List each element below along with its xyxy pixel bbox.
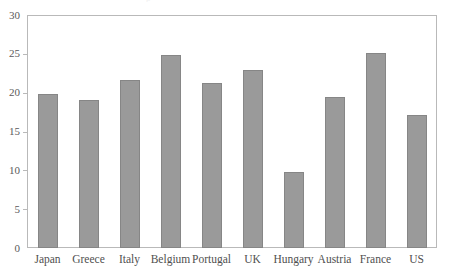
y-axis-tick-label: 5 <box>15 204 21 215</box>
bar <box>366 53 386 248</box>
bar <box>325 97 345 248</box>
y-axis: 051015202530 <box>0 0 27 272</box>
x-axis-category-label: Japan <box>34 252 60 266</box>
bar-chart: p 051015202530 JapanGreeceItalyBelgiumPo… <box>0 0 452 272</box>
x-axis-category-label: UK <box>244 252 261 266</box>
x-axis-category-label: Portugal <box>192 252 231 266</box>
y-axis-tick-label: 10 <box>9 165 20 176</box>
cropped-title-remnant: p <box>146 0 156 2</box>
x-axis-category-label: Greece <box>72 252 105 266</box>
x-axis-category-label: US <box>409 252 424 266</box>
y-axis-tick-label: 0 <box>15 243 21 254</box>
y-axis-tick-label: 25 <box>9 48 20 59</box>
bar <box>38 94 58 248</box>
x-axis-category-label: Belgium <box>151 252 191 266</box>
y-axis-tick-label: 30 <box>9 10 20 21</box>
bars-container <box>27 15 437 248</box>
x-axis-category-label: Italy <box>119 252 140 266</box>
y-axis-tick-label: 20 <box>9 87 20 98</box>
x-axis-category-label: Hungary <box>273 252 313 266</box>
bar <box>79 100 99 248</box>
bar <box>202 83 222 248</box>
x-axis-category-label: Austria <box>318 252 352 266</box>
x-axis-category-label: France <box>360 252 391 266</box>
x-axis: JapanGreeceItalyBelgiumPortugalUKHungary… <box>27 252 437 272</box>
bar <box>120 80 140 248</box>
y-axis-tick-label: 15 <box>9 126 20 137</box>
bar <box>243 70 263 248</box>
bar <box>407 115 427 248</box>
bar <box>284 172 304 248</box>
bar <box>161 55 181 248</box>
